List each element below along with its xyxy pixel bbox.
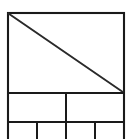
- diagram-canvas: [0, 0, 134, 139]
- panel-line-drawing: [0, 0, 134, 139]
